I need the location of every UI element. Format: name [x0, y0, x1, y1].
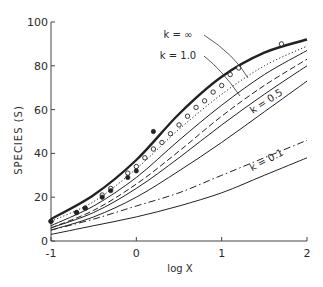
y-tick-label: 20 [34, 191, 48, 204]
series-line [51, 158, 307, 235]
x-tick-label: 1 [218, 247, 225, 260]
x-tick-label: -1 [46, 247, 57, 260]
filled-circle-marker [126, 175, 130, 179]
y-axis: 020406080100 [27, 16, 55, 248]
series-layer [51, 40, 307, 235]
open-circle-marker [194, 105, 198, 109]
y-tick-label: 80 [34, 60, 48, 73]
open-circle-marker [185, 114, 189, 118]
filled-circle-marker [151, 129, 155, 133]
open-circle-marker [202, 99, 206, 103]
series-line [51, 51, 307, 226]
open-circle-marker [160, 140, 164, 144]
series-line [51, 40, 307, 220]
x-axis-label: log X [167, 263, 192, 274]
open-circle-marker [219, 83, 223, 87]
open-circle-marker [151, 147, 155, 151]
y-tick-label: 60 [34, 104, 48, 117]
marker-layer [49, 42, 284, 224]
series-line [51, 59, 307, 228]
open-circle-marker [126, 171, 130, 175]
y-tick-label: 100 [27, 16, 48, 29]
y-axis-label: SPECIES (S) [13, 105, 24, 175]
open-circle-marker [279, 42, 283, 46]
filled-circle-marker [109, 188, 113, 192]
filled-circle-marker [100, 195, 104, 199]
x-tick-label: 2 [304, 247, 311, 260]
filled-circle-marker [83, 206, 87, 210]
x-axis: -1012 [46, 237, 311, 260]
open-circle-marker [134, 164, 138, 168]
series-line [51, 66, 307, 228]
species-chart: 020406080100 -1012 SPECIES (S) log X k =… [0, 0, 323, 287]
filled-circle-marker [134, 169, 138, 173]
open-circle-marker [143, 156, 147, 160]
open-circle-marker [168, 131, 172, 135]
filled-circle-marker [74, 210, 78, 214]
open-circle-marker [211, 90, 215, 94]
open-circle-marker [228, 72, 232, 76]
curve-label: k = 1.0 [160, 50, 196, 61]
open-circle-marker [177, 123, 181, 127]
curve-label: k = ∞ [164, 29, 193, 40]
y-tick-label: 40 [34, 147, 48, 160]
filled-circle-marker [49, 219, 53, 223]
x-tick-label: 0 [133, 247, 140, 260]
